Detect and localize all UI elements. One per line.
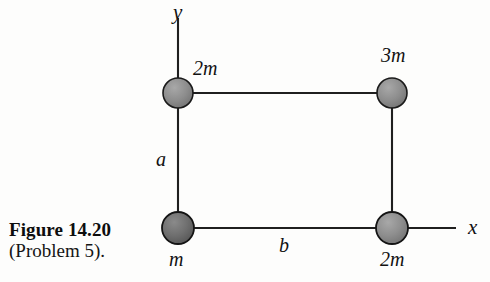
y-axis-label: y: [173, 2, 182, 23]
figure-caption: Figure 14.20 (Problem 5).: [9, 219, 149, 262]
figure-caption-subtitle: (Problem 5).: [9, 240, 149, 261]
mass-sphere-bottom-right[interactable]: [376, 212, 408, 244]
mass-label-bottom-left: m: [169, 249, 183, 269]
mass-sphere-bottom-left[interactable]: [162, 212, 194, 244]
dimension-label-a: a: [156, 149, 166, 169]
mass-sphere-top-right[interactable]: [377, 78, 407, 108]
x-axis-label: x: [468, 217, 477, 238]
mass-label-top-right: 3m: [381, 45, 405, 65]
figure-caption-title: Figure 14.20: [9, 219, 149, 240]
mass-label-top-left: 2m: [193, 58, 217, 78]
figure-container: y x 2m 3m m 2m a b Figure 14.20 (Problem…: [0, 0, 490, 282]
mass-label-bottom-right: 2m: [380, 249, 404, 269]
dimension-label-b: b: [279, 235, 289, 255]
mass-sphere-top-left[interactable]: [163, 78, 193, 108]
